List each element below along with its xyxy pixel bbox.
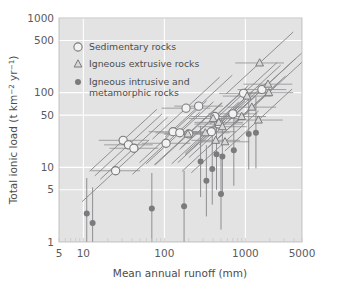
x-axis-tick-label: 100 <box>154 247 174 259</box>
marker-open-circle <box>182 104 190 112</box>
legend-label-igneous_extrusive: Igneous extrusive rocks <box>89 58 199 69</box>
marker-filled-circle <box>253 130 259 136</box>
marker-filled-circle <box>90 220 96 226</box>
marker-filled-circle <box>219 153 225 159</box>
marker-filled-circle <box>218 191 224 197</box>
marker-open-circle <box>195 102 203 110</box>
y-axis-title-sup1: −2 <box>7 84 16 95</box>
marker-filled-circle <box>209 166 215 172</box>
y-axis-title: Total ionic load (t km−2 yr−1) <box>7 56 19 206</box>
marker-open-circle <box>162 139 170 147</box>
y-axis-title-pre: Total ionic load (t km <box>7 95 19 206</box>
figure-container: 51010010005000 1510501005001000 Mean ann… <box>0 0 337 288</box>
y-axis-title-mid: yr <box>7 70 19 85</box>
marker-open-circle <box>176 129 184 137</box>
y-axis-tick-label: 10 <box>41 161 54 173</box>
y-axis-tick-label: 5 <box>47 183 54 195</box>
x-axis-title: Mean annual runoff (mm) <box>113 267 247 279</box>
marker-open-circle <box>112 167 120 175</box>
y-axis-tick-label: 1 <box>47 236 54 248</box>
marker-filled-circle <box>214 151 220 157</box>
marker-filled-circle <box>181 203 187 209</box>
legend-marker-sedimentary <box>74 43 82 51</box>
y-axis-title-sup2: −1 <box>7 60 16 71</box>
x-axis-tick-label: 5 <box>56 247 63 259</box>
y-axis-tick-label: 100 <box>34 86 54 98</box>
x-axis-tick-label: 5000 <box>289 247 316 259</box>
legend-label-igneous_intrusive-line2: metamorphic rocks <box>89 87 179 98</box>
y-axis-tick-label: 500 <box>34 34 54 46</box>
marker-open-circle <box>130 144 138 152</box>
marker-filled-circle <box>198 158 204 164</box>
marker-filled-circle <box>231 147 237 153</box>
legend-label-igneous_intrusive: Igneous intrusive and <box>89 76 190 87</box>
marker-filled-circle <box>149 206 155 212</box>
x-axis-tick-label: 1000 <box>232 247 259 259</box>
marker-filled-circle <box>203 178 209 184</box>
ionic-load-runoff-scatter-chart: 51010010005000 1510501005001000 Mean ann… <box>0 0 337 288</box>
x-axis-tick-label: 10 <box>77 247 90 259</box>
legend-marker-igneous_intrusive <box>75 79 81 85</box>
marker-filled-circle <box>246 131 252 137</box>
legend-label-sedimentary: Sedimentary rocks <box>89 41 176 52</box>
y-axis-title-post: ) <box>7 56 19 60</box>
svg-text:Total ionic load (t km−2 yr−1): Total ionic load (t km−2 yr−1) <box>7 56 19 206</box>
marker-open-circle <box>229 110 237 118</box>
y-axis-tick-label: 1000 <box>27 12 54 24</box>
y-axis-tick-label: 50 <box>41 109 54 121</box>
marker-filled-circle <box>84 211 90 217</box>
